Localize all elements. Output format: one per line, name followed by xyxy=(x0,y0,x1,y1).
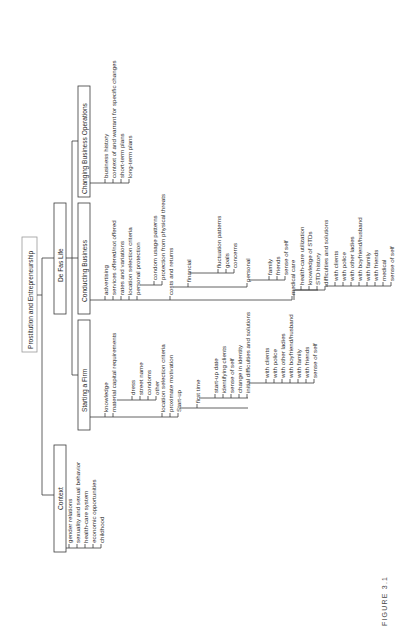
cb-item: costs and returns xyxy=(167,248,174,295)
context-item: health-care system xyxy=(82,491,89,543)
id-item: with family xyxy=(295,348,302,379)
initial-difficulties-connector xyxy=(249,379,314,383)
medical-care-connector xyxy=(294,286,325,300)
id-item: with other ladies xyxy=(279,333,286,379)
context-item: childhood xyxy=(98,516,105,543)
personal-item: family xyxy=(266,258,273,275)
context-item: economic opportunities xyxy=(90,479,97,543)
su-item: start-up date xyxy=(212,358,219,393)
costs-returns-connector xyxy=(173,283,247,287)
de-fas-life-node: De Fas Life xyxy=(54,203,66,314)
changing-business-operations-label: Changing Business Operations xyxy=(81,102,89,194)
changing-business-operations-node: Changing Business Operations xyxy=(78,86,90,197)
saf-item: proximate motivation xyxy=(167,354,174,412)
su-item: change in identity xyxy=(236,344,243,393)
medical-care-item: STD history xyxy=(314,252,321,285)
root-label: Prostitution and Entrepreneurship xyxy=(27,250,35,349)
conducting-business-items: advertising services offered/not offered… xyxy=(102,220,296,295)
md-item: with clients xyxy=(332,251,339,282)
starting-a-firm-node: Starting a Firm xyxy=(78,320,90,430)
concept-tree-diagram: Prostitution and Entrepreneurship De Fas… xyxy=(0,0,409,639)
personal-item: sense of self xyxy=(282,240,289,275)
conducting-business-label: Conducting Business xyxy=(81,239,89,302)
cbo-item: long-term plans xyxy=(126,135,133,178)
id-item: with boyfriend/husband xyxy=(287,314,294,379)
saf-item: Start-up xyxy=(175,389,182,412)
cbo-items: business history context of and warrant … xyxy=(102,60,133,178)
context-connector xyxy=(66,544,101,548)
id-item: with clients xyxy=(263,348,270,379)
financial-item: fluctuation patterns xyxy=(215,216,222,268)
financial-item: concerns xyxy=(231,243,238,268)
saf-item: material capital requirements xyxy=(110,333,117,412)
md-item: with other ladies xyxy=(348,236,355,282)
md-item: with friends xyxy=(372,250,379,282)
first-time-label: first time xyxy=(194,379,201,403)
de-fas-life-label: De Fas Life xyxy=(57,248,64,282)
personal-label: personal xyxy=(244,258,251,282)
personal-connector xyxy=(249,276,285,280)
pp-item: protection from physical threats xyxy=(159,194,166,280)
start-up-connector xyxy=(180,404,248,408)
mc-item: condoms xyxy=(145,370,152,395)
cbo-item: short-term plans xyxy=(118,133,125,178)
root-connector xyxy=(37,258,54,495)
context-label: Context xyxy=(57,487,64,510)
id-item: with friends xyxy=(303,347,310,379)
md-item: medical xyxy=(380,260,387,281)
md-item: sense of self xyxy=(388,246,395,281)
context-item: gender relations xyxy=(66,499,73,543)
context-item: sexuality and sexual behavior xyxy=(74,462,81,543)
start-up-items: start-up date identifying clients sense … xyxy=(212,312,251,393)
su-item: initial difficulties and solutions xyxy=(244,312,251,393)
pp-item: condom usage patterns xyxy=(151,215,158,280)
cbo-item: business history xyxy=(102,133,109,178)
de-fas-life-connector xyxy=(66,141,78,375)
su-item: identifying clients xyxy=(220,346,227,393)
su-item: sense of self xyxy=(228,358,235,393)
conducting-business-connector xyxy=(90,296,292,300)
id-item: sense of self xyxy=(311,343,318,378)
md-item: with police xyxy=(340,252,347,282)
cb-item: location selection criteria xyxy=(126,227,133,295)
cb-item: advertising xyxy=(102,265,109,295)
mc-item: street name xyxy=(137,362,144,395)
mc-item: dress xyxy=(129,380,136,395)
medical-care-item: health-care utilization xyxy=(298,226,305,285)
context-items: gender relations sexuality and sexual be… xyxy=(66,462,105,543)
id-item: with police xyxy=(271,349,278,379)
financial-label: financial xyxy=(185,259,192,282)
starting-a-firm-connector xyxy=(90,413,178,417)
saf-item: location selection criteria xyxy=(159,344,166,412)
starting-a-firm-label: Starting a Firm xyxy=(81,368,89,412)
cbo-connector xyxy=(90,179,129,183)
personal-protection-connector xyxy=(140,281,162,285)
personal-item: friends xyxy=(274,256,281,275)
conducting-business-node: Conducting Business xyxy=(78,203,90,314)
saf-item: knowledge xyxy=(102,382,109,412)
material-capital-connector xyxy=(117,396,156,400)
medical-difficulties-connector xyxy=(325,282,391,287)
figure-caption: FIGURE 3.1 xyxy=(381,576,388,626)
cb-item: personal protection xyxy=(134,242,141,295)
medical-care-item: knowledge of STDs xyxy=(306,231,313,285)
cb-item: rates and variations xyxy=(118,241,125,295)
cbo-item: context of and warrant for specific chan… xyxy=(110,60,117,178)
cb-item: services offered/not offered xyxy=(110,220,117,295)
first-time-connector xyxy=(199,394,248,398)
financial-connector xyxy=(190,269,234,273)
md-item: with family xyxy=(364,251,371,282)
medical-care-item: difficulties and solutions xyxy=(322,220,329,285)
mc-item: other xyxy=(153,381,160,395)
md-item: with boyfriend/husband xyxy=(356,217,363,282)
medical-difficulties-items: with clients with police with other ladi… xyxy=(332,217,395,282)
context-node: Context xyxy=(54,445,66,552)
initial-difficulties-items: with clients with police with other ladi… xyxy=(263,314,318,379)
financial-item: goals xyxy=(223,253,230,268)
root-node: Prostitution and Entrepreneurship xyxy=(22,237,37,352)
